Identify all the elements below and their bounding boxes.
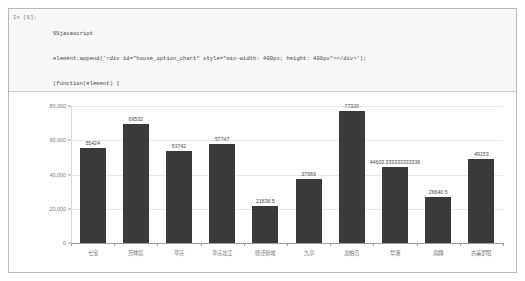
code-input-area[interactable]: In [6]: %%javascript element.append('<di… — [9, 9, 516, 92]
bar-value-label: 53742 — [172, 143, 186, 149]
bar-slot[interactable]: 49153 — [460, 106, 503, 243]
x-axis-tick-mark — [330, 243, 331, 246]
y-axis-tick-label: 60,000 — [50, 137, 67, 143]
x-axis-tick-label: 徐泾新城 — [255, 249, 275, 257]
bar-slot[interactable]: 77320 — [330, 106, 373, 243]
x-axis-tick-mark — [71, 243, 72, 246]
y-axis-tick-label: 80,000 — [50, 103, 67, 109]
notebook-cell[interactable]: In [6]: %%javascript element.append('<di… — [8, 8, 517, 273]
x-axis-tick-label: 华漕 — [390, 249, 400, 257]
bar-slot[interactable]: 44603.333333333336 — [373, 106, 416, 243]
code-line: %%javascript — [53, 30, 512, 38]
x-axis-tick-mark — [460, 243, 461, 246]
bar-value-label: 26640.5 — [429, 189, 448, 195]
cell-output-area: 020,00040,00060,00080,000554246953253742… — [9, 92, 516, 272]
chart-bar[interactable] — [339, 111, 365, 243]
x-axis-tick-label: 九亭 — [304, 249, 314, 257]
x-axis-tick-mark — [157, 243, 158, 246]
bar-slot[interactable]: 57747 — [201, 106, 244, 243]
bar-slot[interactable]: 69532 — [114, 106, 157, 243]
chart-bar[interactable] — [123, 124, 149, 243]
bar-value-label: 69532 — [129, 116, 143, 122]
plot-area: 020,00040,00060,00080,000554246953253742… — [71, 106, 503, 243]
cell-prompt-label: In [6]: — [13, 15, 51, 21]
bar-value-label: 77320 — [345, 103, 359, 109]
x-axis-tick-mark — [287, 243, 288, 246]
x-axis-tick-label: 龙柏沿 — [344, 249, 359, 257]
code-line: (function(element) { — [53, 80, 512, 88]
bar-slot[interactable]: 21636.5 — [244, 106, 287, 243]
y-axis-tick-label: 0 — [63, 240, 66, 246]
bar-value-label: 21636.5 — [256, 198, 275, 204]
chart-bar[interactable] — [252, 206, 278, 243]
bar-value-label: 57747 — [215, 136, 229, 142]
bar-value-label: 55424 — [85, 140, 99, 146]
x-axis-tick-mark — [201, 243, 202, 246]
code-line: element.append('<div id="house_option_ch… — [53, 55, 512, 63]
chart-bar[interactable] — [80, 148, 106, 243]
x-axis-tick-mark — [503, 243, 504, 246]
chart-bar[interactable] — [166, 151, 192, 243]
chart-bar[interactable] — [209, 144, 235, 243]
x-axis-tick-label: 古美罗阳 — [471, 249, 491, 257]
bar-value-label: 37669 — [301, 171, 315, 177]
x-axis-tick-label: 七宝 — [88, 249, 98, 257]
screenshot-root: In [6]: %%javascript element.append('<di… — [0, 0, 525, 281]
y-axis-tick-label: 40,000 — [50, 172, 67, 178]
bar-slot[interactable]: 26640.5 — [417, 106, 460, 243]
x-axis-tick-label: 万体馆 — [128, 249, 143, 257]
bar-value-label: 44603.333333333336 — [370, 159, 421, 165]
x-axis-tick-mark — [417, 243, 418, 246]
x-axis-tick-mark — [114, 243, 115, 246]
chart-bar[interactable] — [468, 159, 494, 243]
bar-slot[interactable]: 55424 — [71, 106, 114, 243]
echarts-bar-chart[interactable]: 020,00040,00060,00080,000554246953253742… — [9, 92, 516, 272]
bar-slot[interactable]: 37669 — [287, 106, 330, 243]
x-axis-tick-label: 南翔 — [433, 249, 443, 257]
x-axis-tick-mark — [244, 243, 245, 246]
chart-bar[interactable] — [425, 197, 451, 243]
y-axis-tick-label: 20,000 — [50, 206, 67, 212]
x-axis-tick-label: 莘庄北江 — [212, 249, 232, 257]
bar-slot[interactable]: 53742 — [157, 106, 200, 243]
x-axis-tick-label: 莘庄 — [174, 249, 184, 257]
chart-bar[interactable] — [296, 179, 322, 244]
chart-bar[interactable] — [382, 167, 408, 243]
x-axis-tick-mark — [373, 243, 374, 246]
bar-value-label: 49153 — [474, 151, 488, 157]
